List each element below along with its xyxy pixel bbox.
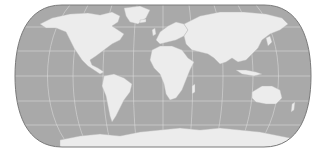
madagascar: [192, 84, 195, 94]
world-map: [0, 0, 327, 155]
